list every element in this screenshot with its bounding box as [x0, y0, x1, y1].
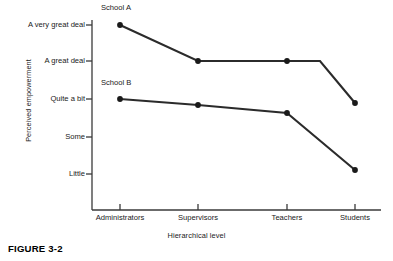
y-axis-ticks	[86, 25, 92, 174]
series-label-school-b: School B	[101, 78, 131, 87]
figure-container: Perceived empowerment A very great deal …	[0, 0, 393, 261]
axes	[92, 20, 381, 210]
x-tick-label-administrators: Administrators	[96, 213, 145, 222]
x-tick-label-students: Students	[340, 213, 370, 222]
y-axis-tick-labels: A very great deal A great deal Quite a b…	[0, 0, 85, 261]
x-tick-label-supervisors: Supervisors	[178, 213, 218, 222]
x-axis-title: Hierarchical level	[0, 231, 393, 240]
series-line-school-a	[120, 25, 355, 103]
figure-caption: FIGURE 3-2	[8, 243, 63, 254]
data-point-school-b-students	[352, 167, 358, 173]
series-label-school-a: School A	[101, 3, 131, 12]
y-tick-label-quite-a-bit: Quite a bit	[0, 95, 85, 103]
y-tick-label-a-great-deal: A great deal	[0, 57, 85, 65]
y-tick-label-some: Some	[0, 133, 85, 141]
series-line-school-b	[120, 99, 355, 170]
data-point-school-b-supervisors	[195, 102, 201, 108]
y-tick-label-a-very-great-deal: A very great deal	[0, 21, 85, 29]
x-tick-label-teachers: Teachers	[272, 213, 303, 222]
data-point-school-a-supervisors	[195, 58, 201, 64]
data-point-school-a-teachers	[284, 58, 290, 64]
x-axis-ticks	[120, 204, 355, 210]
data-point-school-a-administrators	[117, 22, 123, 28]
data-point-school-a-students	[352, 100, 358, 106]
y-tick-label-little: Little	[0, 170, 85, 178]
data-point-school-b-administrators	[117, 96, 123, 102]
data-point-school-b-teachers	[284, 110, 290, 116]
